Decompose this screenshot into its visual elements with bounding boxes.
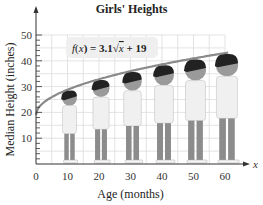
- x-tick-label: 20: [94, 170, 106, 182]
- y-tick-label: 50: [21, 29, 33, 41]
- y-tick-label: 10: [21, 132, 33, 144]
- x-tick-label: 50: [188, 170, 200, 182]
- girl-figure-50: [184, 59, 207, 163]
- girl-figures: [61, 54, 239, 163]
- x-tick-label: 30: [125, 170, 137, 182]
- y-tick-label: 20: [21, 106, 33, 118]
- y-tick-label: 40: [21, 55, 33, 67]
- formula-box: f(x) = 3.1√x + 19: [66, 37, 158, 58]
- x-axis-title: Age (months): [97, 187, 163, 201]
- y-axis-title: Median Height (inches): [3, 43, 17, 157]
- girl-figure-40: [153, 65, 175, 163]
- chart-plot: x10203040500102030405060Age (months)Medi…: [0, 0, 263, 205]
- x-axis-symbol: x: [252, 158, 258, 170]
- girl-figure-30: [122, 72, 143, 163]
- y-axis-arrow-icon: [34, 6, 39, 13]
- formula-text: f(x) = 3.1√x + 19: [72, 42, 147, 55]
- x-axis-arrow-icon: [243, 162, 250, 167]
- y-tick-label: 30: [21, 81, 33, 93]
- girl-figure-60: [215, 54, 239, 163]
- x-tick-label: 10: [62, 170, 74, 182]
- x-tick-label: 40: [157, 170, 169, 182]
- girl-figure-10: [61, 90, 78, 163]
- x-tick-label: 60: [220, 170, 232, 182]
- origin-label: 0: [33, 170, 39, 182]
- girl-figure-20: [92, 80, 111, 163]
